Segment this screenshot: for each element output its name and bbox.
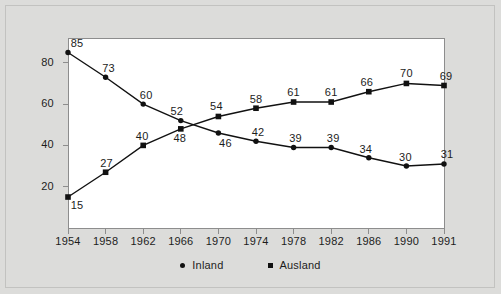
x-axis-tick-label: 1974	[235, 235, 277, 247]
x-axis-tick-label: 1978	[273, 235, 315, 247]
data-point-label: 58	[243, 93, 269, 105]
chart-legend: Inland Ausland	[0, 259, 501, 271]
y-axis-tick-label: 80	[28, 56, 54, 68]
x-axis-tick-label: 1966	[160, 235, 202, 247]
data-point-label: 66	[354, 76, 380, 88]
data-point-label: 15	[64, 199, 90, 211]
x-axis-tick-label: 1970	[197, 235, 239, 247]
x-axis-tick-label: 1990	[385, 235, 427, 247]
x-axis-tick-label: 1958	[85, 235, 127, 247]
x-axis-tick-label: 1991	[423, 235, 465, 247]
data-point-label: 27	[94, 157, 120, 169]
x-axis-tick-label: 1962	[122, 235, 164, 247]
data-point-label: 54	[203, 100, 229, 112]
x-axis-tick-label: 1954	[47, 235, 89, 247]
data-point-label: 60	[133, 89, 159, 101]
data-point-label: 85	[64, 37, 90, 49]
y-axis-tick-label: 20	[28, 180, 54, 192]
data-point-label: 34	[353, 143, 379, 155]
x-axis-tick-label: 1982	[310, 235, 352, 247]
data-point-label: 31	[434, 148, 460, 160]
data-point-label: 73	[96, 62, 122, 74]
y-axis-tick-label: 40	[28, 138, 54, 150]
legend-item-label: Ausland	[280, 259, 321, 271]
square-marker-icon	[268, 263, 273, 268]
chart-figure: 20406080 1954195819621966197019741978198…	[0, 0, 501, 294]
data-point-label: 61	[318, 86, 344, 98]
legend-item-ausland[interactable]: Ausland	[268, 259, 321, 271]
legend-item-inland[interactable]: Inland	[180, 259, 223, 271]
data-point-label: 61	[281, 86, 307, 98]
data-point-label: 46	[212, 137, 238, 149]
circle-marker-icon	[180, 263, 185, 268]
data-point-label: 48	[167, 132, 193, 144]
data-point-label: 39	[320, 132, 346, 144]
data-point-label: 52	[164, 105, 190, 117]
data-point-label: 69	[433, 70, 459, 82]
data-point-label: 70	[393, 67, 419, 79]
x-axis-tick-label: 1986	[348, 235, 390, 247]
legend-item-label: Inland	[192, 259, 223, 271]
y-axis-tick-label: 60	[28, 97, 54, 109]
data-point-label: 42	[245, 126, 271, 138]
data-point-label: 40	[129, 130, 155, 142]
data-point-label: 39	[283, 132, 309, 144]
data-point-label: 30	[392, 151, 418, 163]
